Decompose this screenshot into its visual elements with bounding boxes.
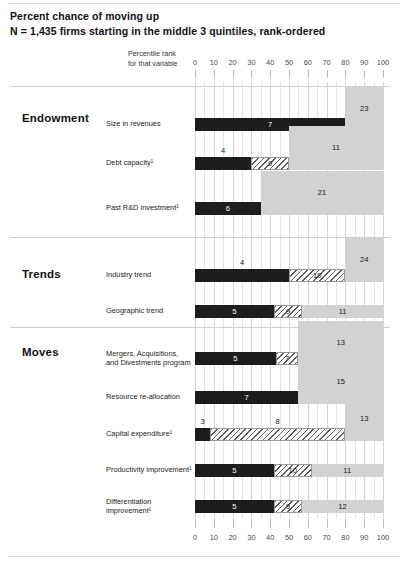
x-axis-tick-label-top: 40: [266, 58, 274, 67]
gridline: [233, 82, 234, 518]
x-axis-tick-label-top: 10: [210, 58, 218, 67]
gridline: [195, 82, 196, 518]
bar-segment-hatch: [210, 428, 345, 441]
axis-caption-line2: for that variable: [128, 59, 192, 69]
bar-value-label: 12: [338, 502, 346, 511]
bar-value-label: 7: [285, 354, 289, 363]
group-label-endowment: Endowment: [22, 112, 89, 124]
x-axis-tickmark-bottom: [308, 519, 309, 528]
x-axis-tickmark-top: [364, 70, 365, 78]
row-label: Geographic trend: [106, 306, 192, 316]
x-axis-tickmark-bottom: [270, 519, 271, 528]
gridline: [383, 82, 384, 518]
x-axis-tick-label-bottom: 100: [377, 533, 389, 542]
x-axis-tickmark-bottom: [364, 519, 365, 528]
x-axis-tickmark-top: [383, 70, 384, 78]
axis-caption: Percentile rank for that variable: [128, 49, 192, 68]
x-axis-tickmark-bottom: [327, 519, 328, 528]
x-axis-tick-label-bottom: 10: [210, 533, 218, 542]
x-axis-tickmark-top: [289, 70, 290, 78]
bar-value-label: 24: [360, 255, 368, 264]
x-axis-tickmark-top: [270, 70, 271, 78]
x-axis-tick-label-bottom: 40: [266, 533, 274, 542]
bar-value-label: 13: [360, 414, 368, 423]
x-axis-tick-label-top: 50: [285, 58, 293, 67]
x-axis-tick-label-bottom: 20: [228, 533, 236, 542]
gridline: [251, 82, 252, 518]
gridline: [214, 82, 215, 518]
bar-value-label: 8: [276, 417, 280, 426]
row-label: Resource re-allocation: [106, 392, 192, 402]
x-axis-tickmark-bottom: [345, 519, 346, 528]
page-title: Percent chance of moving up: [10, 10, 159, 22]
x-axis-tickmark-bottom: [251, 519, 252, 528]
gridline: [270, 82, 271, 518]
x-axis-tick-label-bottom: 30: [247, 533, 255, 542]
group-separator: [10, 86, 390, 87]
bar-value-label: 4: [240, 258, 244, 267]
bar-value-label: 21: [318, 188, 326, 197]
row-label: Capital expenditure¹: [106, 429, 192, 439]
row-label: Productivity improvement¹: [106, 465, 192, 475]
bar-value-label: 9: [286, 307, 290, 316]
bar-value-label: 7: [245, 393, 249, 402]
x-axis-tickmark-top: [214, 70, 215, 78]
x-axis-tick-label-top: 70: [322, 58, 330, 67]
bar-segment-dark: [195, 428, 210, 441]
x-axis-tick-label-top: 60: [304, 58, 312, 67]
gridline: [261, 82, 262, 518]
bar-value-label: 6: [226, 204, 230, 213]
x-axis-tick-label-bottom: 70: [322, 533, 330, 542]
group-label-trends: Trends: [22, 268, 61, 280]
x-axis-tickmark-bottom: [195, 519, 196, 528]
bar-value-label: 9: [268, 159, 272, 168]
bar-segment-dark: [195, 157, 251, 170]
row-label: Size in revenues: [106, 119, 192, 129]
bar-value-label: 23: [360, 104, 368, 113]
gridline: [204, 82, 205, 518]
row-label: Debt capacity¹: [106, 158, 192, 168]
x-axis-tickmark-bottom: [383, 519, 384, 528]
row-label: Industry trend: [106, 270, 192, 280]
x-axis-tickmark-top: [195, 70, 196, 78]
x-axis-tick-label-top: 90: [360, 58, 368, 67]
x-axis-tick-label-bottom: 0: [193, 533, 197, 542]
row-label: Differentiation improvement¹: [106, 497, 192, 516]
x-axis-tick-label-top: 80: [341, 58, 349, 67]
x-axis-tickmark-top: [327, 70, 328, 78]
axis-caption-line1: Percentile rank: [128, 49, 192, 59]
group-label-moves: Moves: [22, 346, 59, 358]
x-axis-tickmark-bottom: [214, 519, 215, 528]
x-axis-tickmark-top: [233, 70, 234, 78]
bar-value-label: 15: [336, 377, 344, 386]
bar-value-label: 11: [343, 466, 351, 475]
x-axis-tick-label-top: 0: [193, 58, 197, 67]
x-axis-tick-label-top: 30: [247, 58, 255, 67]
x-axis-tickmark-bottom: [233, 519, 234, 528]
gridline: [242, 82, 243, 518]
bar-value-label: 10: [289, 466, 297, 475]
bar-value-label: 11: [339, 307, 347, 316]
bar-value-label: 5: [232, 502, 236, 511]
x-axis-tick-label-bottom: 50: [285, 533, 293, 542]
bar-value-label: 4: [221, 146, 225, 155]
x-axis-tick-label-top: 100: [377, 58, 389, 67]
group-separator: [10, 237, 390, 238]
x-axis-tickmark-top: [308, 70, 309, 78]
gridline: [280, 82, 281, 518]
bar-value-label: 11: [332, 143, 340, 152]
chart-page: Percent chance of moving up N = 1,435 fi…: [0, 0, 408, 563]
bar-value-label: 5: [232, 307, 236, 316]
bar-value-label: 5: [232, 466, 236, 475]
row-label: Mergers, Acquisitions, and Divestments p…: [106, 349, 192, 368]
x-axis-tick-label-bottom: 80: [341, 533, 349, 542]
bar-value-label: 13: [336, 338, 344, 347]
row-label: Past R&D investment¹: [106, 203, 192, 213]
bottom-divider: [8, 556, 400, 557]
bar-value-label: 7: [268, 120, 272, 129]
bar-value-label: 9: [286, 502, 290, 511]
x-axis-tick-label-bottom: 90: [360, 533, 368, 542]
x-axis-tickmark-top: [251, 70, 252, 78]
bar-value-label: 5: [233, 354, 237, 363]
x-axis-tick-label-bottom: 60: [304, 533, 312, 542]
